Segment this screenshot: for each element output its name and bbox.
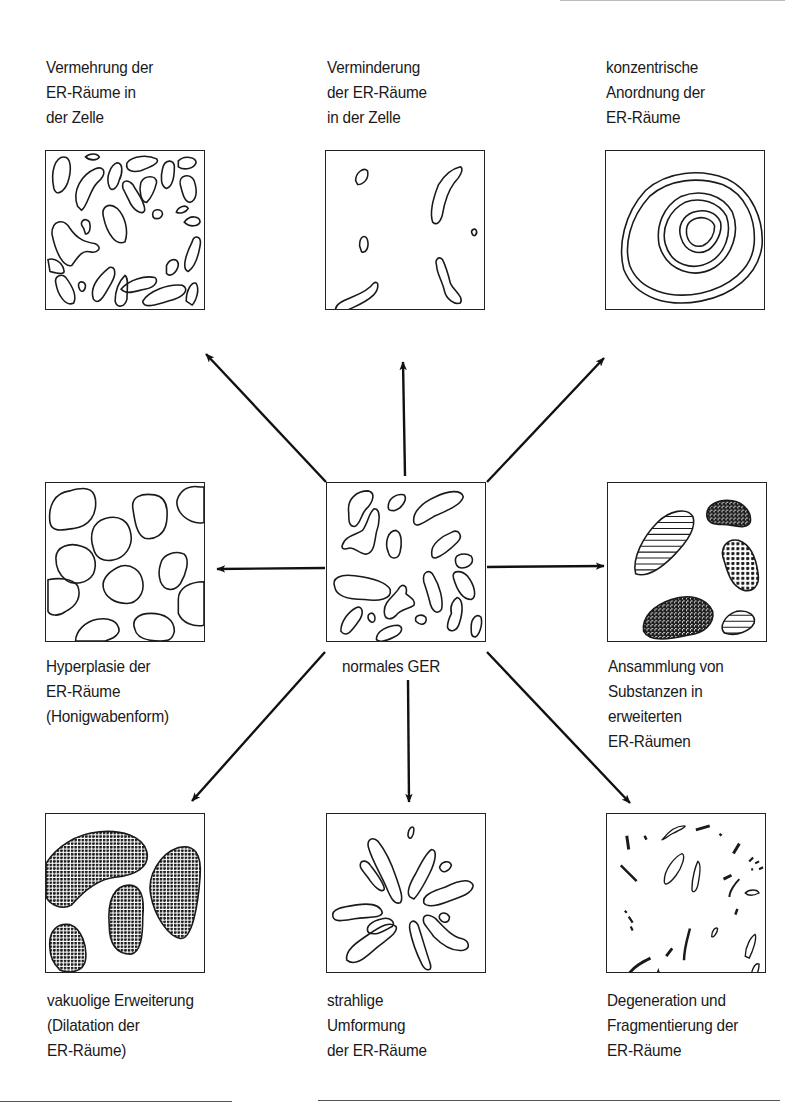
label-line: Vermehrung der	[46, 55, 153, 80]
label-dilatation: vakuolige Erweiterung (Dilatation der ER…	[47, 988, 194, 1063]
normal-ger-drawing	[327, 483, 485, 641]
panel-dilatation	[45, 813, 205, 973]
label-concentric: konzentrische Anordnung der ER-Räume	[606, 55, 705, 130]
panel-accumulation	[607, 482, 767, 642]
label-line: (Dilatation der	[47, 1013, 194, 1038]
label-line: erweiterten	[608, 704, 724, 729]
label-line: (Honigwabenform)	[46, 704, 169, 729]
label-hyperplasia: Hyperplasie der ER-Räume (Honigwabenform…	[46, 654, 169, 729]
panel-increase	[45, 150, 205, 310]
label-line: Degeneration und	[607, 988, 738, 1013]
arrow-to-increase	[206, 354, 326, 482]
arrow-to-decrease	[403, 362, 405, 476]
label-radial: strahlige Umformung der ER-Räume	[327, 988, 427, 1063]
label-line: Fragmentierung der	[607, 1013, 738, 1038]
panel-concentric	[605, 150, 765, 310]
label-line: ER-Räume in	[46, 80, 153, 105]
label-line: der Zelle	[46, 105, 153, 130]
vacuolar-dilatation-drawing	[46, 814, 204, 972]
label-accumulation: Ansammlung von Substanzen in erweiterten…	[608, 654, 724, 754]
label-line: Ansammlung von	[608, 654, 724, 679]
label-line: strahlige	[327, 988, 427, 1013]
label-line: ER-Räume	[606, 105, 705, 130]
arrow-to-hyperplasia	[217, 568, 325, 569]
panel-normal	[326, 482, 486, 642]
label-degeneration: Degeneration und Fragmentierung der ER-R…	[607, 988, 738, 1063]
label-line: Verminderung	[327, 55, 427, 80]
panel-hyperplasia	[45, 482, 205, 642]
label-line: ER-Räumen	[608, 729, 724, 754]
panel-degeneration	[606, 813, 766, 973]
label-line: der ER-Räume	[327, 80, 427, 105]
radial-reshaping-drawing	[327, 814, 485, 972]
honeycomb-er-drawing	[46, 483, 204, 641]
many-er-spaces-drawing	[46, 151, 204, 309]
concentric-er-drawing	[606, 151, 764, 309]
bottom-rule-right	[318, 1100, 780, 1101]
label-line: in der Zelle	[327, 105, 427, 130]
few-er-spaces-drawing	[326, 151, 484, 309]
label-line: Umformung	[327, 1013, 427, 1038]
bottom-rule-left	[0, 1101, 232, 1102]
fragmentation-drawing	[607, 814, 765, 972]
label-line: der ER-Räume	[327, 1038, 427, 1063]
arrow-to-accumulation	[487, 566, 604, 567]
label-line: vakuolige Erweiterung	[47, 988, 194, 1013]
arrow-to-dilatation	[192, 652, 325, 801]
label-normal: normales GER	[342, 654, 440, 679]
label-line: ER-Räume	[46, 679, 169, 704]
substance-accumulation-drawing	[608, 483, 766, 641]
panel-decrease	[325, 150, 485, 310]
label-line: Hyperplasie der	[46, 654, 169, 679]
panel-radial	[326, 813, 486, 973]
label-increase: Vermehrung der ER-Räume in der Zelle	[46, 55, 153, 130]
label-decrease: Verminderung der ER-Räume in der Zelle	[327, 55, 427, 130]
arrow-to-concentric	[487, 358, 604, 482]
arrow-to-radial	[408, 680, 409, 802]
label-line: konzentrische	[606, 55, 705, 80]
label-line: ER-Räume)	[47, 1038, 194, 1063]
top-page-rule	[560, 0, 785, 1]
label-line: normales GER	[342, 654, 440, 679]
label-line: Substanzen in	[608, 679, 724, 704]
label-line: Anordnung der	[606, 80, 705, 105]
label-line: ER-Räume	[607, 1038, 738, 1063]
